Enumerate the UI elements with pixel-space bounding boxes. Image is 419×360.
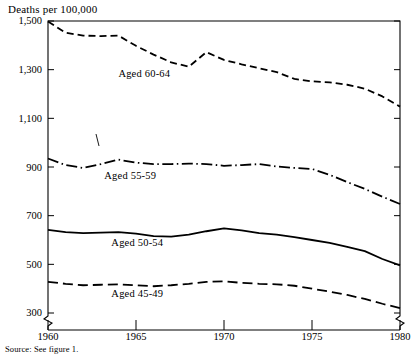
source-note: Source: See figure 1. bbox=[5, 344, 78, 354]
plot-canvas bbox=[0, 0, 419, 360]
chart-figure: Deaths per 100,000 1,500 1,300 1,100 900… bbox=[0, 0, 419, 360]
